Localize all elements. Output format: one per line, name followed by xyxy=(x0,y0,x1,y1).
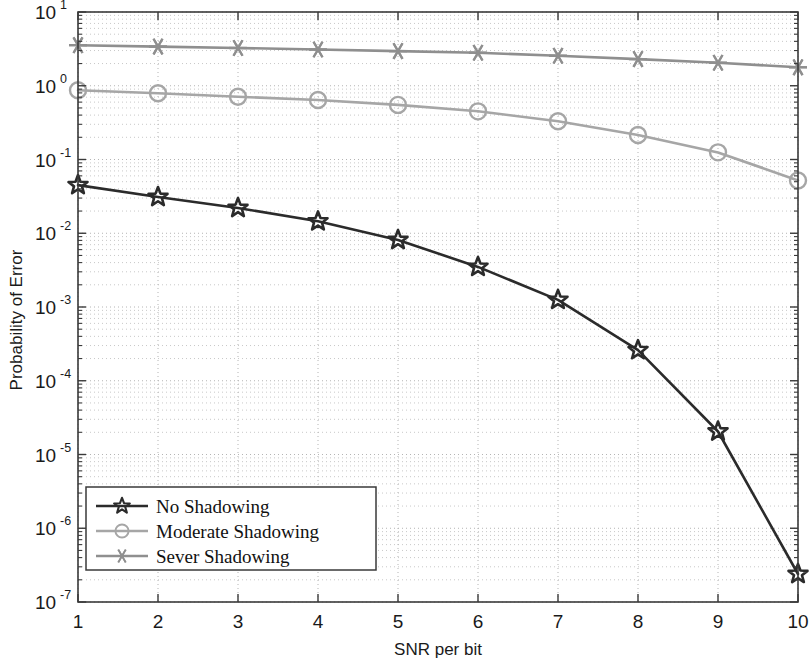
x-tick-label: 2 xyxy=(153,611,164,632)
log-line-chart: 10110010-110-210-310-410-510-610-7123456… xyxy=(0,0,809,661)
series-1 xyxy=(70,82,806,188)
y-tick-label: 10 xyxy=(35,518,56,539)
y-tick-exponent: -1 xyxy=(60,146,71,160)
y-tick-label: 10 xyxy=(35,445,56,466)
x-tick-label: 7 xyxy=(553,611,564,632)
y-tick-label: 10 xyxy=(35,150,56,171)
x-tick-label: 4 xyxy=(313,611,324,632)
y-tick-exponent: -3 xyxy=(60,293,71,307)
y-tick-exponent: -2 xyxy=(60,219,71,233)
y-tick-label: 10 xyxy=(35,297,56,318)
y-tick-exponent: 1 xyxy=(60,0,67,12)
x-tick-label: 1 xyxy=(73,611,84,632)
x-axis-title: SNR per bit xyxy=(394,640,482,659)
y-tick-exponent: -5 xyxy=(60,441,71,455)
legend: No ShadowingModerate ShadowingSever Shad… xyxy=(86,487,376,570)
y-tick-exponent: -6 xyxy=(60,514,71,528)
y-tick-label: 10 xyxy=(35,371,56,392)
x-tick-label: 6 xyxy=(473,611,484,632)
series-2 xyxy=(69,37,807,75)
x-tick-label: 9 xyxy=(713,611,724,632)
y-tick-label: 10 xyxy=(35,223,56,244)
y-tick-exponent: 0 xyxy=(60,72,67,86)
y-tick-label: 10 xyxy=(35,592,56,613)
legend-label: No Shadowing xyxy=(156,496,270,517)
x-tick-label: 5 xyxy=(393,611,404,632)
x-tick-label: 10 xyxy=(787,611,808,632)
legend-label: Sever Shadowing xyxy=(156,546,290,567)
y-tick-label: 10 xyxy=(35,76,56,97)
legend-label: Moderate Shadowing xyxy=(156,521,320,542)
y-tick-exponent: -4 xyxy=(60,367,71,381)
y-tick-label: 10 xyxy=(35,2,56,23)
y-tick-exponent: -7 xyxy=(60,588,71,602)
x-tick-label: 3 xyxy=(233,611,244,632)
x-tick-label: 8 xyxy=(633,611,644,632)
y-axis-title: Probability of Error xyxy=(7,249,26,390)
chart-figure: 10110010-110-210-310-410-510-610-7123456… xyxy=(0,0,809,661)
